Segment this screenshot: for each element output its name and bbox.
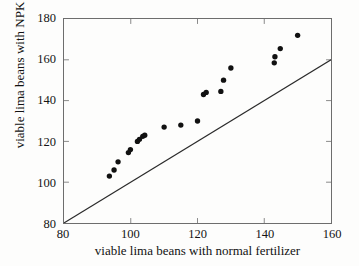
data-point <box>278 46 283 51</box>
data-point <box>272 60 277 65</box>
data-point <box>142 133 147 138</box>
plot-canvas <box>64 19 331 223</box>
data-point <box>295 33 300 38</box>
y-tick-label: 80 <box>22 218 56 231</box>
plot-frame <box>63 18 332 224</box>
data-point-group <box>107 33 301 179</box>
x-tick-label: 160 <box>323 228 342 241</box>
y-tick-label: 100 <box>22 177 56 190</box>
data-point <box>228 65 233 70</box>
data-point <box>107 173 112 178</box>
data-point <box>272 54 277 59</box>
x-tick-label: 120 <box>188 228 207 241</box>
data-point <box>195 118 200 123</box>
identity-reference-line <box>64 60 331 223</box>
data-point <box>203 90 208 95</box>
data-point <box>128 147 133 152</box>
x-tick-label: 80 <box>57 228 70 241</box>
data-point <box>111 167 116 172</box>
x-axis-title: viable lima beans with normal fertilizer <box>63 243 332 259</box>
data-point <box>161 124 166 129</box>
data-point <box>221 78 226 83</box>
y-axis-title: viable lima beans with NPK fertilizer <box>12 0 28 154</box>
x-tick-label: 100 <box>121 228 140 241</box>
data-point <box>115 159 120 164</box>
data-point <box>218 89 223 94</box>
x-tick-label: 140 <box>255 228 274 241</box>
scatter-plot-figure: 80 100 120 140 160 180 80 100 120 140 16… <box>0 0 359 266</box>
data-point <box>178 122 183 127</box>
